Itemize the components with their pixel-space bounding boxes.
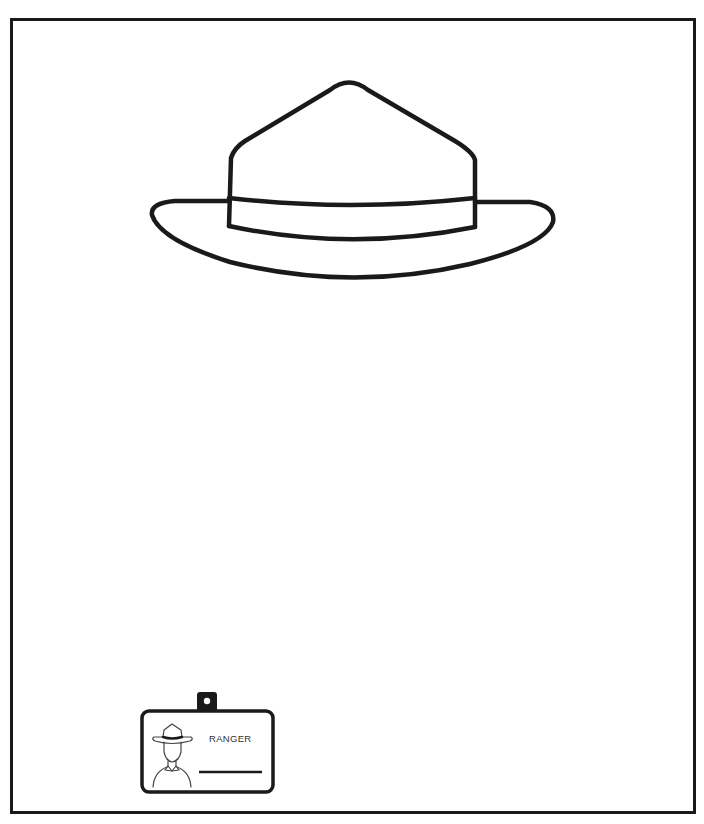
ranger-hat-outline-icon — [152, 83, 553, 278]
illustration-canvas — [0, 0, 704, 824]
badge-label: RANGER — [209, 733, 251, 744]
